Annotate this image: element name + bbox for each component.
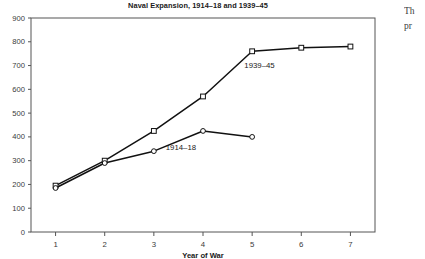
x-tick-label: 1: [53, 240, 57, 249]
data-point-marker: [53, 186, 58, 191]
data-point-marker: [250, 134, 255, 139]
series-annotation-1: 1939–45: [244, 61, 275, 70]
line-chart-plot: 01002003004005006007008009001234567Year …: [0, 0, 396, 259]
data-point-marker: [250, 49, 255, 54]
y-tick-label: 800: [12, 37, 25, 46]
y-tick-label: 900: [12, 14, 25, 23]
data-point-marker: [201, 129, 206, 134]
data-point-marker: [102, 161, 107, 166]
x-tick-label: 3: [152, 240, 156, 249]
y-tick-label: 0: [21, 228, 25, 237]
x-tick-label: 6: [299, 240, 303, 249]
page-canvas: Naval Expansion, 1914–18 and 1939–45 010…: [0, 0, 425, 259]
data-point-marker: [151, 149, 156, 154]
y-tick-label: 200: [12, 180, 25, 189]
data-point-marker: [151, 129, 156, 134]
y-tick-label: 300: [12, 156, 25, 165]
series-annotation-2: 1914–18: [166, 143, 196, 152]
chart-figure: Naval Expansion, 1914–18 and 1939–45 010…: [0, 0, 396, 259]
y-tick-label: 400: [12, 132, 25, 141]
data-point-marker: [299, 45, 304, 50]
x-tick-label: 7: [348, 240, 352, 249]
x-tick-label: 2: [103, 240, 107, 249]
y-tick-label: 500: [12, 109, 25, 118]
x-axis-label: Year of War: [182, 251, 224, 259]
x-tick-label: 5: [250, 240, 255, 249]
data-point-marker: [348, 44, 353, 49]
y-tick-label: 600: [12, 85, 25, 94]
body-text-column: Th pr: [404, 4, 425, 34]
body-text-line-2: pr: [404, 19, 425, 34]
x-tick-label: 4: [201, 240, 206, 249]
body-text-line-1: Th: [404, 4, 425, 19]
data-point-marker: [201, 94, 206, 99]
plot-frame: [31, 18, 375, 232]
y-tick-label: 100: [12, 204, 25, 213]
series-line-2: [56, 131, 253, 188]
y-tick-label: 700: [12, 61, 25, 70]
